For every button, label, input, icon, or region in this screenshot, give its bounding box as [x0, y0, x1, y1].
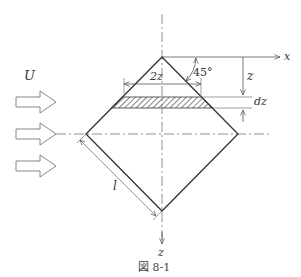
flow-arrow-icon: [16, 155, 56, 177]
strip-thickness-label: dz: [254, 95, 267, 108]
flow-arrow-icon: [16, 123, 56, 145]
z-axis-label: z: [157, 246, 164, 259]
width-label: 2z: [149, 70, 163, 83]
x-axis-label: x: [284, 50, 291, 63]
flow-arrow-icon: [16, 91, 56, 113]
figure-caption: 図 8-1: [138, 261, 170, 274]
angle-label: 45°: [193, 66, 213, 79]
side-length-label: l: [113, 179, 117, 193]
hatched-strip: [111, 97, 213, 108]
depth-label: z: [246, 69, 254, 83]
side-length-dimension: [77, 134, 162, 220]
flow-velocity-label: U: [24, 68, 36, 83]
diagram-canvas: U x 2z 45° z dz l z 図 8-1: [0, 0, 301, 277]
flow-arrows: [16, 91, 56, 177]
